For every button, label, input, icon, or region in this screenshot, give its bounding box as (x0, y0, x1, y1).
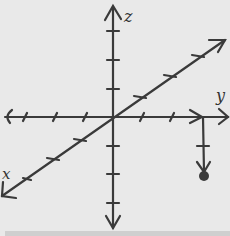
axes-diagram: z y x (0, 0, 230, 236)
z-label: z (123, 7, 133, 26)
y-label: y (215, 86, 226, 105)
x-label: x (2, 165, 11, 183)
vector (190, 110, 210, 172)
bottom-strip (5, 231, 230, 236)
vector-point (199, 171, 209, 181)
